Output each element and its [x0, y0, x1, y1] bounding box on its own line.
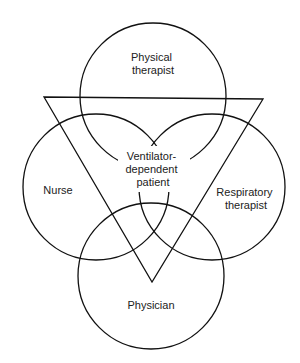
label-physical-therapist: Physical therapist	[131, 51, 175, 76]
care-team-diagram: Physical therapist Nurse Respiratory the…	[0, 0, 300, 363]
label-respiratory-therapist: Respiratory therapist	[216, 186, 275, 211]
label-physician: Physician	[127, 299, 174, 311]
label-nurse: Nurse	[43, 184, 72, 196]
circle-physician	[78, 203, 224, 349]
